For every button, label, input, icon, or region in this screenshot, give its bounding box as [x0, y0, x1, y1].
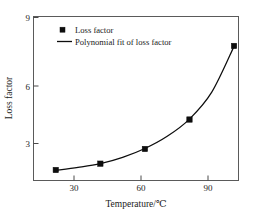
x-axis-title: Temperature/℃ [105, 199, 167, 209]
x-tick-label-30: 30 [70, 183, 80, 193]
y-axis-ticks [34, 18, 39, 144]
legend-label-loss-factor: Loss factor [75, 25, 114, 35]
data-point-marker [98, 161, 103, 166]
data-point-marker [142, 146, 147, 151]
legend-label-polynomial-fit: Polynomial fit of loss factor [75, 37, 172, 47]
x-tick-label-60: 60 [137, 183, 147, 193]
y-tick-label-9: 9 [26, 13, 31, 23]
data-point-marker [187, 117, 192, 122]
y-axis-title: Loss factor [4, 76, 14, 119]
x-axis-ticks [74, 176, 208, 181]
legend: Loss factor Polynomial fit of loss facto… [57, 25, 172, 47]
y-tick-label-3: 3 [26, 139, 31, 149]
chart-figure: 9 6 3 30 60 90 Temperature/℃ Loss factor… [0, 0, 256, 220]
y-tick-label-6: 6 [26, 82, 31, 92]
legend-square-marker-icon [60, 27, 65, 32]
data-point-marker [53, 167, 58, 172]
chart-canvas: 9 6 3 30 60 90 Temperature/℃ Loss factor… [0, 0, 256, 220]
loss-factor-data-points [53, 43, 237, 172]
x-tick-label-90: 90 [204, 183, 214, 193]
data-point-marker [231, 43, 236, 48]
